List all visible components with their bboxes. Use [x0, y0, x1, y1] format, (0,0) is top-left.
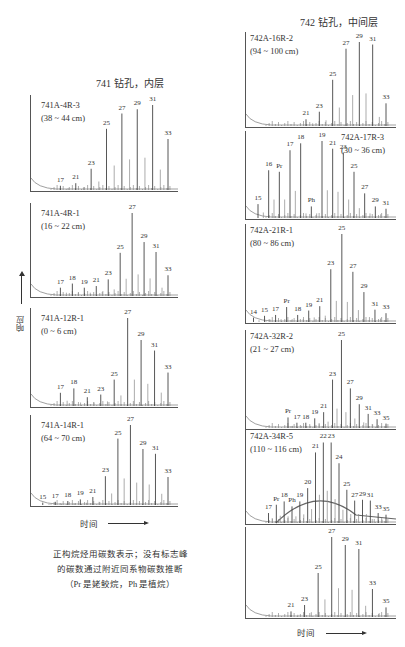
peak-label-22: 22	[320, 432, 327, 440]
peak-label-17: 17	[265, 503, 272, 511]
sample-label: 741A-12R-1(0 ~ 6 cm)	[41, 312, 84, 338]
sample-id: 741A-4R-3	[41, 99, 85, 112]
peak-label-21: 21	[316, 296, 323, 304]
peak-label-35: 35	[383, 414, 390, 422]
peak-label-27: 27	[127, 415, 134, 423]
peak-label-21: 21	[320, 402, 327, 410]
peak-label-31: 31	[365, 404, 372, 412]
sample-depth: (0 ~ 6 cm)	[41, 325, 84, 338]
chromatogram-742a-21r-1: 141517Pr181921232527293133742A-21R-1(80 …	[245, 224, 396, 324]
peak-label-25: 25	[117, 243, 124, 251]
peak-label-18: 18	[297, 133, 304, 141]
sample-depth: (94 ~ 100 cm)	[250, 45, 298, 58]
peak-label-16: 16	[265, 160, 272, 168]
peak-label-25: 25	[103, 119, 110, 127]
peak-label-25: 25	[338, 330, 345, 338]
peak-label-17: 17	[52, 492, 59, 500]
peak-label-33: 33	[374, 409, 381, 417]
x-arrow-left-icon	[108, 523, 146, 524]
peak-label-18: 18	[281, 491, 288, 499]
sample-label: 741A-14R-1(64 ~ 70 cm)	[41, 419, 85, 445]
peak-label-20: 20	[304, 478, 311, 486]
peak-label-25: 25	[315, 563, 322, 571]
peak-label-29: 29	[134, 99, 141, 107]
peak-label-18: 18	[64, 491, 71, 499]
peak-label-25: 25	[111, 370, 118, 378]
peak-label-27: 27	[351, 491, 358, 499]
sample-label: 741A-4R-3(38 ~ 44 cm)	[41, 99, 85, 125]
peak-label-23: 23	[102, 466, 109, 474]
chromatogram-unlabeled: 2123252729313335	[245, 527, 396, 619]
sample-label: 742A-21R-1(80 ~ 86 cm)	[250, 224, 294, 250]
peak-label-23: 23	[329, 370, 336, 378]
sample-id: 742A-16R-2	[250, 32, 298, 45]
sample-id: 742A-32R-2	[250, 330, 294, 343]
peak-label-31: 31	[153, 242, 160, 250]
y-axis-arrow-head-icon	[19, 271, 25, 276]
caption-line-3: （Pr 是姥鲛烷，Ph 是植烷）	[45, 577, 195, 592]
x-arrow-right-head-icon	[362, 631, 367, 635]
peak-label-21: 21	[288, 601, 295, 609]
peak-label-15: 15	[261, 306, 268, 314]
peak-label-29: 29	[359, 490, 366, 498]
peak-label-33: 33	[375, 503, 382, 511]
peak-label-29: 29	[356, 32, 363, 40]
peak-label-23: 23	[316, 102, 323, 110]
chromatogram-741a-4r-3: 1721232527293133741A-4R-3(38 ~ 44 cm)	[30, 95, 178, 192]
peak-label-18: 18	[69, 274, 76, 282]
sample-id: 741A-12R-1	[41, 312, 84, 325]
peak-label-23: 23	[327, 259, 334, 267]
chromatogram-742a-32r-2: Pr1718192123252729313335742A-32R-2(21 ~ …	[245, 330, 396, 430]
peak-label-33: 33	[165, 467, 172, 475]
peak-label-27: 27	[349, 262, 356, 270]
x-axis-label-right: 时间	[297, 626, 315, 638]
peak-label-29: 29	[139, 439, 146, 447]
peak-label-18: 18	[70, 378, 77, 386]
sample-depth: (80 ~ 86 cm)	[250, 237, 294, 250]
peak-label-21: 21	[329, 139, 336, 147]
peak-label-33: 33	[383, 303, 390, 311]
peak-label-27: 27	[361, 183, 368, 191]
peak-label-21: 21	[303, 109, 310, 117]
peak-label-18: 18	[294, 305, 301, 313]
peak-label-31: 31	[371, 300, 378, 308]
peak-label-29: 29	[372, 196, 379, 204]
peak-label-21: 21	[84, 387, 91, 395]
peak-label-23: 23	[105, 269, 112, 277]
peak-label-27: 27	[343, 39, 350, 47]
sample-id: 741A-14R-1	[41, 419, 85, 432]
peak-label-25: 25	[338, 224, 345, 232]
peak-label-33: 33	[165, 265, 172, 273]
sample-id: 741A-4R-1	[41, 207, 85, 220]
peak-label-29: 29	[141, 232, 148, 240]
peak-label-35: 35	[383, 505, 390, 513]
x-axis-label-left: 时间	[80, 517, 98, 529]
peak-label-31: 31	[369, 35, 376, 43]
peak-label-19: 19	[296, 491, 303, 499]
peak-label-17: 17	[272, 305, 279, 313]
sample-depth: (21 ~ 27 cm)	[250, 343, 294, 356]
peak-label-23: 23	[328, 432, 335, 440]
peak-label-17: 17	[57, 383, 64, 391]
peak-label-29: 29	[138, 330, 145, 338]
peak-label-29: 29	[342, 535, 349, 543]
y-axis-label: 响应	[15, 316, 26, 332]
sample-depth: (64 ~ 70 cm)	[41, 432, 85, 445]
chromatogram-741a-4r-1: 17181921232527293133741A-4R-1(16 ~ 22 cm…	[30, 203, 178, 298]
peak-label-19: 19	[81, 278, 88, 286]
peak-label-27: 27	[328, 527, 335, 535]
peak-label-14: 14	[250, 308, 257, 316]
sample-id: 742A-17R-3	[341, 131, 385, 144]
x-arrow-left-head-icon	[144, 521, 149, 525]
sample-id: 742A-34R-5	[250, 430, 302, 443]
peak-label-25: 25	[329, 70, 336, 78]
peak-label-25: 25	[114, 429, 121, 437]
peak-label-35: 35	[383, 597, 390, 605]
peak-label-31: 31	[367, 491, 374, 499]
peak-label-21: 21	[72, 173, 79, 181]
peak-label-29: 29	[356, 394, 363, 402]
peak-label-27: 27	[129, 203, 136, 211]
sample-depth: (110 ~ 116 cm)	[250, 443, 302, 456]
peak-label-25: 25	[343, 480, 350, 488]
peak-label-pr: Pr	[276, 162, 282, 170]
